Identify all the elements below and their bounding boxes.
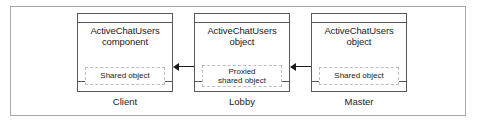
node-master-title-line1: ActiveChatUsers bbox=[311, 25, 407, 36]
node-client-title: ActiveChatUsers component bbox=[77, 25, 173, 47]
node-client-title-line1: ActiveChatUsers bbox=[77, 25, 173, 36]
node-lobby: ActiveChatUsers object Proxied shared ob… bbox=[194, 13, 290, 92]
node-lobby-title-line1: ActiveChatUsers bbox=[194, 25, 290, 36]
node-master-shared-object-label: Shared object bbox=[334, 71, 383, 81]
node-client-header-band bbox=[78, 22, 172, 23]
node-master-title-line2: object bbox=[311, 36, 407, 47]
node-client-shared-object-label: Shared object bbox=[100, 71, 149, 81]
node-lobby-proxied-line2: shared object bbox=[218, 76, 266, 86]
node-client-title-line2: component bbox=[77, 36, 173, 47]
node-client-shared-object: Shared object bbox=[85, 67, 165, 85]
node-lobby-caption: Lobby bbox=[194, 96, 290, 108]
node-master-title: ActiveChatUsers object bbox=[311, 25, 407, 47]
node-lobby-header-band bbox=[195, 22, 289, 23]
node-lobby-title: ActiveChatUsers object bbox=[194, 25, 290, 47]
node-lobby-proxied-shared-object: Proxied shared object bbox=[202, 65, 282, 87]
node-master-shared-object: Shared object bbox=[319, 67, 399, 85]
diagram-figure: ActiveChatUsers component Shared object … bbox=[0, 0, 477, 130]
arrow-head-left-icon bbox=[290, 63, 296, 71]
node-client-caption: Client bbox=[77, 96, 173, 108]
node-master-caption: Master bbox=[311, 96, 407, 108]
node-lobby-proxied-line1: Proxied bbox=[218, 67, 266, 77]
node-master: ActiveChatUsers object Shared object bbox=[311, 13, 407, 92]
arrow-head-left-icon bbox=[173, 63, 179, 71]
node-lobby-title-line2: object bbox=[194, 36, 290, 47]
node-master-header-band bbox=[312, 22, 406, 23]
node-client: ActiveChatUsers component Shared object bbox=[77, 13, 173, 92]
